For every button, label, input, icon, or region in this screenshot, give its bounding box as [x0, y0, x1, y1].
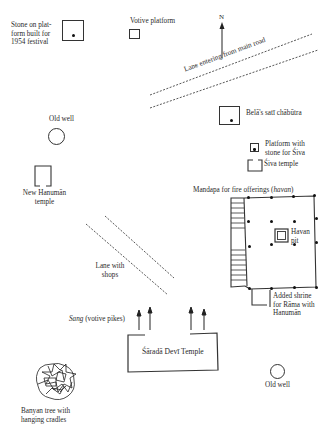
sarada-devi-temple-label: Śāradā Devī Temple [142, 348, 204, 357]
havan-pit-label: Havan pit [291, 228, 310, 245]
label-line: Hanumān [273, 309, 315, 318]
mandapa-label-italic: havan [274, 186, 292, 194]
pillar [270, 287, 273, 290]
pillar [270, 220, 273, 223]
label-line: pit [291, 237, 310, 246]
pillar [248, 287, 251, 290]
pillar [313, 194, 316, 197]
label-line: hanging cradles [21, 416, 70, 425]
pillar [247, 196, 250, 199]
lane-shops-label: Lane with shops [92, 262, 128, 279]
label-line: New Hanumān [22, 189, 67, 198]
pillar [315, 286, 318, 289]
pillar [293, 220, 296, 223]
added-shrine-label: Added shrine for Rāma with Hanumān [273, 292, 315, 318]
pillar [315, 217, 318, 220]
mandapa-label: Mandapa for fire offerings (havan) [193, 186, 293, 195]
mandapa-label-text: Mandapa for fire offerings ( [193, 186, 274, 194]
label-line: Added shrine [273, 292, 315, 301]
sang-label: Sang (votive pikes) [69, 315, 125, 324]
mandapa-label-suffix: ) [291, 186, 293, 194]
label-line: Havan [291, 228, 310, 237]
old-well-bottom-label: Old well [265, 381, 290, 390]
old-well-bottom-icon [270, 364, 285, 379]
label-line: shops [92, 271, 128, 280]
pillar [270, 196, 273, 199]
pillar [248, 245, 251, 248]
label-line: Lane with [92, 262, 128, 271]
label-line: for Rāma with [273, 301, 315, 310]
pillar [315, 241, 318, 244]
banyan-label: Banyan tree with hanging cradles [21, 407, 70, 424]
pillar [293, 286, 296, 289]
pillar [247, 220, 250, 223]
sang-label-italic: Sang [69, 315, 83, 323]
pillar [292, 195, 295, 198]
new-hanuman-label: New Hanumān temple [22, 189, 67, 206]
sang-label-text: (votive pikes) [83, 315, 125, 323]
pillar [270, 243, 273, 246]
label-line: Banyan tree with [21, 407, 70, 416]
label-line: temple [22, 198, 67, 207]
